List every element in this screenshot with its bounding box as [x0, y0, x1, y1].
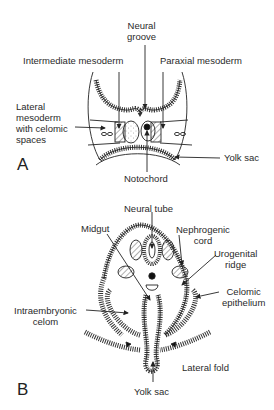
label-neural-groove-line1: Neural [127, 20, 156, 31]
label-lateral-line3: with celomic [16, 123, 68, 134]
label-celomic-epithelium: Celomic epithelium [222, 286, 265, 308]
label-celomic-line2: epithelium [222, 297, 265, 308]
label-lateral-mesoderm: Lateral mesoderm with celomic spaces [16, 101, 68, 145]
label-celomic-line1: Celomic [222, 286, 265, 297]
label-intermediate-mesoderm: Intermediate mesoderm [23, 55, 123, 66]
panel-letter-b: B [17, 380, 28, 400]
label-intraembryonic-line2: celom [14, 316, 77, 327]
label-notochord: Notochord [124, 173, 168, 184]
label-yolk-sac-b: Yolk sac [134, 386, 169, 397]
label-urogenital-ridge: Urogenital ridge [214, 248, 257, 270]
label-yolk-sac-a: Yolk sac [224, 152, 259, 163]
label-lateral-fold: Lateral fold [182, 362, 229, 373]
label-urogenital-line1: Urogenital [214, 248, 257, 259]
label-neural-groove: Neural groove [127, 20, 156, 42]
label-nephrogenic-line2: cord [176, 235, 230, 246]
panel-b-drawing [85, 225, 210, 371]
label-intraembryonic-celom: Intraembryonic celom [14, 305, 77, 327]
label-neural-groove-line2: groove [127, 31, 156, 42]
label-intraembryonic-line1: Intraembryonic [14, 305, 77, 316]
label-paraxial-mesoderm: Paraxial mesoderm [160, 55, 242, 66]
label-nephrogenic-cord: Nephrogenic cord [176, 224, 230, 246]
label-neural-tube: Neural tube [124, 203, 173, 214]
label-nephrogenic-line1: Nephrogenic [176, 224, 230, 235]
label-lateral-line2: mesoderm [16, 112, 68, 123]
label-urogenital-line2: ridge [214, 259, 257, 270]
label-lateral-line1: Lateral [16, 101, 68, 112]
label-lateral-line4: spaces [16, 134, 68, 145]
panel-a-drawing [88, 72, 192, 165]
panel-letter-a: A [17, 155, 28, 175]
label-midgut: Midgut [81, 223, 110, 234]
